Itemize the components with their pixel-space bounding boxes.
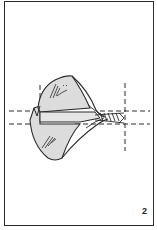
- upper-flute: [38, 76, 90, 112]
- drill-illustration: [0, 0, 157, 230]
- web-band: [40, 112, 100, 122]
- figure-number: 2: [142, 206, 147, 216]
